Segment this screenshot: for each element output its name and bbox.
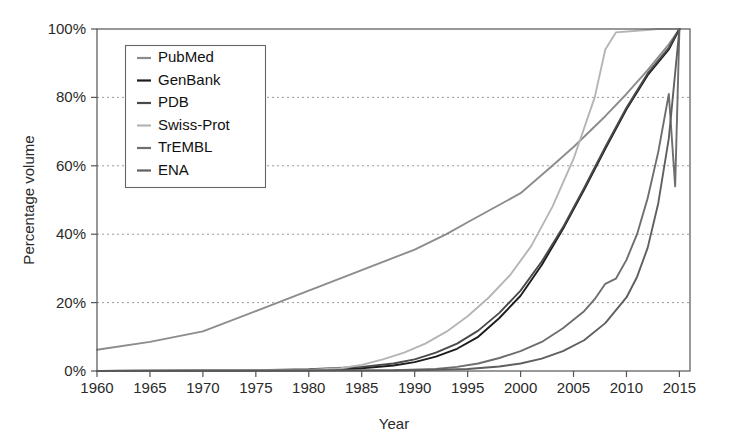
legend-label-pubmed: PubMed [158,48,214,65]
chart-figure: 1960196519701975198019851990199520002005… [0,0,730,446]
x-tick-label-1990: 1990 [398,379,431,396]
x-tick-label-1995: 1995 [451,379,484,396]
x-axis-title: Year [379,415,409,432]
x-tick-label-2005: 2005 [557,379,590,396]
legend-label-pdb: PDB [158,93,189,110]
legend-label-trembl: TrEMBL [158,138,212,155]
legend-label-ena: ENA [158,161,189,178]
x-tick-label-1960: 1960 [80,379,113,396]
x-tick-label-2010: 2010 [610,379,643,396]
x-tick-label-2015: 2015 [663,379,696,396]
y-tick-label-40: 40% [56,225,86,242]
y-tick-label-0: 0% [64,362,86,379]
y-axis-ticks: 0%20%40%60%80%100% [48,20,97,379]
y-tick-label-100: 100% [48,20,86,37]
x-tick-label-2000: 2000 [504,379,537,396]
x-tick-label-1965: 1965 [133,379,166,396]
x-axis-ticks: 1960196519701975198019851990199520002005… [80,371,696,396]
x-tick-label-1980: 1980 [292,379,325,396]
chart-svg: 1960196519701975198019851990199520002005… [0,0,730,446]
y-axis-title: Percentage volume [20,135,37,264]
legend-label-genbank: GenBank [158,71,221,88]
y-tick-label-60: 60% [56,157,86,174]
x-tick-label-1970: 1970 [186,379,219,396]
legend-label-swiss-prot: Swiss-Prot [158,116,231,133]
x-tick-label-1975: 1975 [239,379,272,396]
y-tick-label-80: 80% [56,88,86,105]
chart-legend: PubMedGenBankPDBSwiss-ProtTrEMBLENA [126,46,266,188]
y-tick-label-20: 20% [56,294,86,311]
x-tick-label-1985: 1985 [345,379,378,396]
